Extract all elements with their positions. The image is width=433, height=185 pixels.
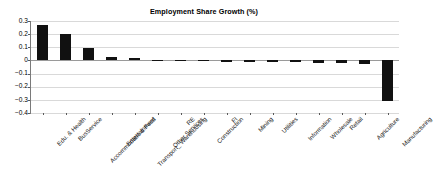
x-axis-tick-mark [204,113,205,115]
y-axis-tick-label: 0.3 [0,18,28,25]
x-axis-tick-label: Mining [257,116,275,134]
x-axis-tick-label-text: Construction [216,116,245,145]
plot-area [31,21,399,113]
bar [37,25,49,61]
y-axis-tick-label: 0.1 [0,44,28,51]
x-axis-tick-mark [158,113,159,115]
bar [244,60,256,61]
x-axis-tick-label: Agriculture [375,116,400,141]
x-axis-tick-mark [273,113,274,115]
bar [336,60,348,63]
y-axis-tick-label: −0.4 [0,110,28,117]
y-axis-tick-label: −0.2 [0,83,28,90]
x-axis-tick-label: Construction [216,116,245,145]
bar [221,60,233,61]
bar [267,60,279,61]
x-axis-tick-label: Entertainment [125,116,157,148]
bar [198,60,210,61]
bar [106,57,118,60]
x-axis-tick-label-text: Mining [257,116,275,134]
x-axis-tick-mark [342,113,343,115]
x-axis-tick-label: Manufacturing [401,116,433,148]
bar [290,60,302,62]
x-axis-tick-label: Information [306,116,332,142]
x-axis-tick-label-text: Entertainment [125,116,157,148]
bar [382,60,394,101]
bar [83,48,95,61]
x-axis-tick-mark [250,113,251,115]
y-axis: 0.30.20.10−0.1−0.2−0.3−0.4 [0,21,28,113]
x-axis-tick-mark [181,113,182,115]
y-axis-tick-label: −0.3 [0,97,28,104]
x-axis-tick-mark [365,113,366,115]
x-axis-tick-label-text: Information [306,116,332,142]
x-axis-tick-mark [43,113,44,115]
bar [359,60,371,64]
x-axis-tick-mark [319,113,320,115]
bar [129,58,141,60]
bar [175,60,187,61]
x-axis-tick-mark [112,113,113,115]
x-axis-tick-mark [227,113,228,115]
x-axis-tick-mark [89,113,90,115]
x-axis-tick-label: Utilities [280,116,299,135]
x-axis-tick-mark [388,113,389,115]
x-axis: Edu. & HealthBusServiceAccommodatio & Fo… [31,113,399,185]
chart-title: Employment Share Growth (%) [0,7,408,16]
y-axis-tick-label: 0.2 [0,31,28,38]
y-axis-tick-label: −0.1 [0,70,28,77]
x-axis-tick-mark [66,113,67,115]
bar [60,34,72,61]
bar-series [31,21,399,113]
x-axis-tick-label-text: Utilities [280,116,299,135]
x-axis-tick-mark [135,113,136,115]
y-axis-tick-label: 0 [0,57,28,64]
bar [313,60,325,62]
bar [152,60,164,61]
x-axis-tick-label-text: Manufacturing [401,116,433,148]
x-axis-tick-label-text: Agriculture [375,116,400,141]
x-axis-tick-mark [296,113,297,115]
